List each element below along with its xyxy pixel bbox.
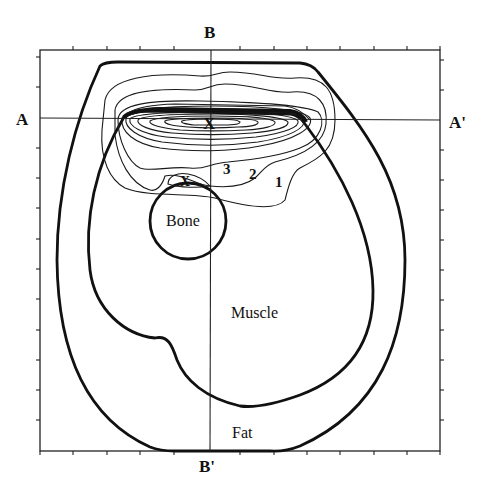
contour-label-1: 1	[275, 174, 283, 190]
muscle-outline	[88, 111, 373, 407]
contour-label-3: 3	[223, 161, 231, 177]
region-label-bone: Bone	[166, 212, 200, 229]
axis-label-b-prime: B'	[199, 457, 215, 476]
region-label-muscle: Muscle	[231, 304, 278, 321]
region-label-fat: Fat	[232, 424, 253, 441]
axis-label-a: A	[16, 110, 29, 129]
axis-label-b: B	[204, 23, 215, 42]
isodose-contours	[102, 72, 335, 206]
axis-label-a-prime: A'	[449, 113, 466, 132]
contour-label-2: 2	[249, 166, 257, 182]
cross-section-diagram: X X 1 2 3 B B' A A' Bone Muscle Fat	[0, 0, 480, 496]
primary-max-marker: X	[203, 114, 216, 133]
frame-ticks	[36, 46, 444, 455]
secondary-max-marker: X	[180, 174, 190, 189]
skin-outline	[57, 62, 405, 451]
